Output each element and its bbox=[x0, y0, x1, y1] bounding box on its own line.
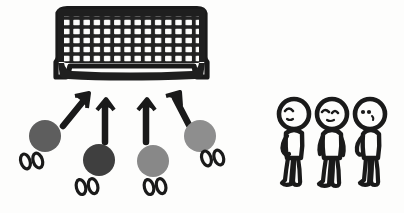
arrow-4 bbox=[166, 92, 189, 125]
footprints-2 bbox=[75, 176, 100, 198]
goal-left-post bbox=[58, 12, 64, 62]
player-3-eye-right bbox=[367, 110, 371, 114]
ball-4 bbox=[184, 120, 216, 152]
player-2-mouth bbox=[327, 120, 334, 121]
player-3-head bbox=[355, 99, 385, 129]
ball-group bbox=[29, 120, 216, 177]
footprint-group bbox=[19, 146, 226, 197]
player-2-torso bbox=[323, 130, 342, 158]
player-3-legs bbox=[360, 158, 370, 185]
player-2-legs bbox=[319, 158, 331, 186]
arrow-2 bbox=[97, 99, 114, 142]
soccer-goal bbox=[56, 8, 208, 81]
player-1 bbox=[279, 99, 309, 185]
player-3-mouth bbox=[372, 116, 373, 120]
goal-right-post bbox=[199, 12, 205, 62]
footprints-1 bbox=[19, 149, 45, 173]
goal-net-mesh bbox=[56, 8, 208, 68]
drill-diagram-canvas bbox=[0, 0, 404, 213]
player-1-eye bbox=[285, 109, 293, 112]
arrow-group bbox=[63, 92, 189, 142]
goal-crossbar bbox=[58, 9, 205, 16]
player-1-mouth bbox=[287, 119, 293, 120]
player-3-eye-left bbox=[361, 110, 365, 114]
arrow-1 bbox=[63, 93, 89, 126]
player-2-eye-right bbox=[332, 111, 338, 113]
player-3-torso bbox=[363, 130, 380, 158]
player-2 bbox=[317, 99, 347, 186]
player-2-eye-left bbox=[322, 110, 329, 112]
player-3 bbox=[355, 99, 385, 185]
diagram-svg bbox=[0, 0, 404, 213]
footprints-3 bbox=[143, 176, 168, 198]
player-2-arm-right bbox=[341, 137, 344, 155]
ball-3 bbox=[137, 145, 169, 177]
arrow-3 bbox=[138, 99, 155, 142]
ball-1 bbox=[29, 120, 61, 152]
figure-group bbox=[279, 99, 385, 186]
ball-2 bbox=[83, 144, 115, 176]
player-1-head bbox=[279, 99, 309, 129]
